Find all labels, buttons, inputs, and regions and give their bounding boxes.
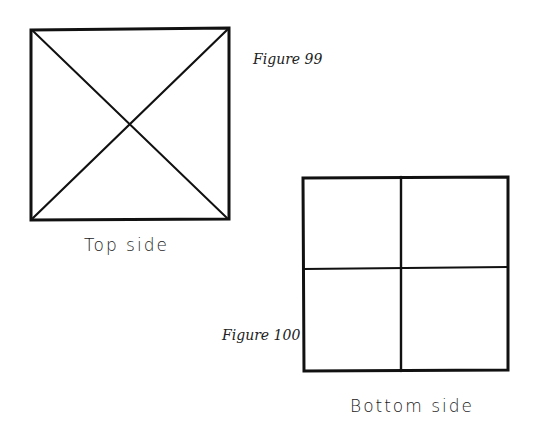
diagram-page: Figure 99 Top side Figure 100 Bottom sid… (0, 0, 534, 430)
figure-100-caption: Figure 100 (222, 327, 300, 343)
top-side-label: Top side (84, 235, 169, 255)
figure-99-drawing (31, 28, 229, 220)
bottom-square-horizontal-divider (303, 267, 508, 269)
bottom-side-label: Bottom side (350, 396, 474, 416)
figure-99-caption: Figure 99 (253, 51, 322, 67)
figure-100-drawing (303, 177, 508, 371)
bottom-square-outline (303, 177, 508, 371)
